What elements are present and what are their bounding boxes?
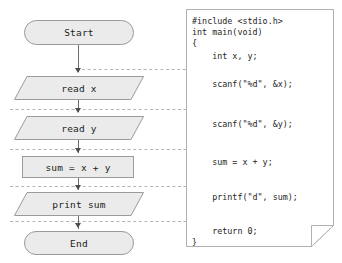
flowchart-node-read-y-label: read y [61, 123, 97, 134]
flowchart-node-end[interactable]: End [24, 231, 134, 255]
flowchart-arrowhead-print-sum [75, 185, 81, 190]
code-line-include: #include <stdio.h> [192, 17, 283, 25]
flowchart-arrowhead-read-x [75, 68, 81, 73]
flowchart-node-sum[interactable]: sum = x + y [22, 156, 134, 178]
code-listing: #include <stdio.h> int main(void) { int … [186, 9, 334, 247]
flowchart-arrowhead-read-y [75, 108, 81, 113]
code-line-scanf-x: scanf("%d", &x); [192, 80, 293, 88]
flowchart: Start read x read y sum = x + y [0, 0, 182, 263]
code-line-main: int main(void) [192, 28, 263, 36]
flowchart-code-diagram: Start read x read y sum = x + y [0, 0, 342, 263]
flowchart-node-print-sum[interactable]: print sum [14, 192, 144, 216]
flowchart-node-end-label: End [70, 238, 88, 249]
code-line-sum: sum = x + y; [192, 158, 273, 166]
flowchart-arrowhead-sum [75, 148, 81, 153]
flowchart-node-read-x-label: read x [61, 83, 97, 94]
code-line-scanf-y: scanf("%d", &y); [192, 120, 293, 128]
code-line-close-brace: } [192, 238, 197, 246]
code-line-declare: int x, y; [192, 52, 258, 60]
flowchart-node-start-label: Start [64, 27, 94, 38]
flowchart-node-read-y[interactable]: read y [14, 116, 144, 140]
flowchart-arrowhead-end [75, 223, 81, 228]
code-panel[interactable]: #include <stdio.h> int main(void) { int … [186, 9, 334, 247]
code-line-open-brace: { [192, 39, 197, 47]
flowchart-node-print-sum-label: print sum [52, 199, 105, 210]
code-line-return: return 0; [192, 227, 258, 235]
flowchart-node-read-x[interactable]: read x [14, 76, 144, 100]
flowchart-node-sum-label: sum = x + y [45, 162, 110, 173]
code-line-printf: printf("d", sum); [192, 193, 298, 201]
flowchart-node-start[interactable]: Start [24, 20, 134, 45]
